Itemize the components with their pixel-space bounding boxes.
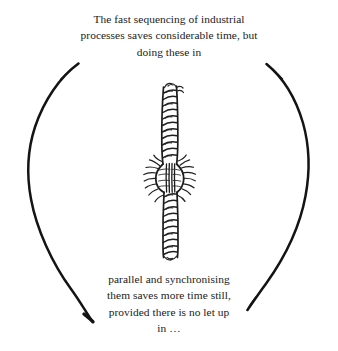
caption-top: The fast sequencing of industrial proces…: [0, 11, 338, 60]
caption-bottom-line-4: in …: [0, 320, 338, 336]
caption-top-line-3: doing these in: [0, 44, 338, 60]
caption-bottom: parallel and synchronising them saves mo…: [0, 271, 338, 336]
caption-bottom-line-2: them saves more time still,: [0, 287, 338, 303]
caption-bottom-line-3: provided there is no let up: [0, 304, 338, 320]
caption-top-line-1: The fast sequencing of industrial: [0, 11, 338, 27]
figure-canvas: The fast sequencing of industrial proces…: [0, 0, 338, 351]
caption-top-line-2: processes saves considerable time, but: [0, 27, 338, 43]
twisted-rope-illustration: [144, 83, 196, 259]
caption-bottom-line-1: parallel and synchronising: [0, 271, 338, 287]
